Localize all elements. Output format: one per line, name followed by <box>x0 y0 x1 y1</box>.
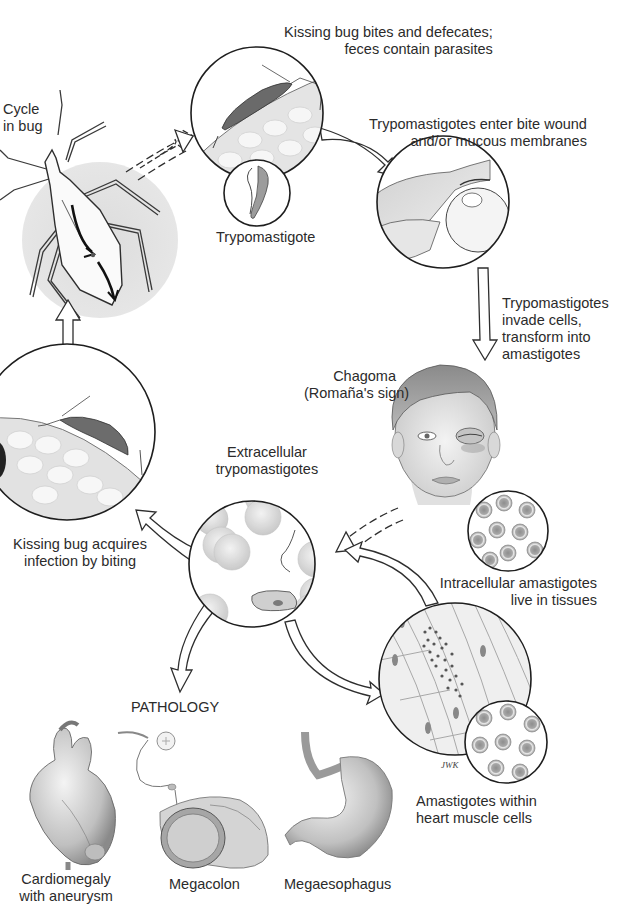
heart-cardiomegaly-drawing <box>30 722 116 870</box>
bite-wound-eye-circle <box>375 136 510 270</box>
label-cardiomegaly: Cardiomegaly with aneurysm <box>18 871 114 905</box>
heart-muscle-cells-circle <box>379 600 547 783</box>
bug-acquires-infection-circle <box>0 344 155 530</box>
label-extracellular: Extracellular trypomastigotes <box>212 444 322 478</box>
extracellular-trypomastigotes-circle <box>189 479 334 630</box>
trypomastigote-inset <box>224 160 290 226</box>
label-megacolon: Megacolon <box>169 876 240 893</box>
label-acquires-infection: Kissing bug acquires infection by biting <box>10 536 150 570</box>
label-heart-muscle: Amastigotes within heart muscle cells <box>416 793 537 827</box>
intracellular-amastigotes-circle <box>468 491 548 571</box>
megaesophagus-stomach-drawing <box>285 732 392 858</box>
megacolon-drawing <box>118 732 268 868</box>
label-invade-cells: Trypomastigotes invade cells, transform … <box>502 295 609 363</box>
label-enter-wound: Trypomastigotes enter bite wound and/or … <box>369 116 587 150</box>
label-cycle-in-bug: Cycle in bug <box>3 101 43 135</box>
label-bites-defecates: Kissing bug bites and defecates; feces c… <box>284 24 493 58</box>
label-chagoma: Chagoma (Romaña's sign) <box>304 368 396 402</box>
label-intracellular: Intracellular amastigotes live in tissue… <box>430 575 597 609</box>
label-megaesophagus: Megaesophagus <box>284 876 391 893</box>
label-pathology: PATHOLOGY <box>131 699 219 716</box>
label-trypomastigote: Trypomastigote <box>216 229 315 246</box>
artist-signature: JWK <box>441 760 459 770</box>
